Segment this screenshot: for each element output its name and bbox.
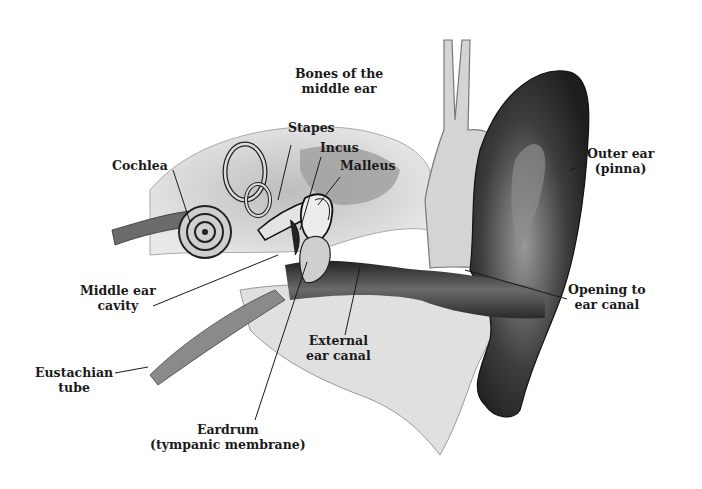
label-stapes: Stapes: [288, 120, 335, 135]
label-eardrum-line-2: (tympanic membrane): [150, 437, 306, 452]
label-bones-of-middle-ear: Bones of the middle ear: [295, 66, 383, 96]
label-eustachian-line-2: tube: [35, 380, 113, 395]
label-eardrum: Eardrum (tympanic membrane): [150, 422, 306, 452]
ear-anatomy-diagram: Bones of the middle ear Stapes Incus Mal…: [0, 0, 702, 489]
label-outer-line-1: Outer ear: [587, 146, 654, 161]
label-bones-line-2: middle ear: [295, 81, 383, 96]
label-external-line-2: ear canal: [306, 348, 371, 363]
label-middle-ear-cavity: Middle ear cavity: [80, 283, 156, 313]
label-cavity-line-2: cavity: [80, 298, 156, 313]
label-eustachian-line-1: Eustachian: [35, 365, 113, 380]
label-opening-to-ear-canal: Opening to ear canal: [568, 282, 646, 312]
label-cochlea: Cochlea: [112, 158, 168, 173]
label-eustachian-tube: Eustachian tube: [35, 365, 113, 395]
label-malleus: Malleus: [340, 158, 396, 173]
pinna: [470, 71, 589, 417]
label-outer-line-2: (pinna): [587, 161, 654, 176]
label-outer-ear: Outer ear (pinna): [587, 146, 654, 176]
label-opening-line-1: Opening to: [568, 282, 646, 297]
label-external-ear-canal: External ear canal: [306, 333, 371, 363]
label-bones-line-1: Bones of the: [295, 66, 383, 81]
label-cavity-line-1: Middle ear: [80, 283, 156, 298]
label-eardrum-line-1: Eardrum: [150, 422, 306, 437]
label-opening-line-2: ear canal: [568, 297, 646, 312]
label-external-line-1: External: [306, 333, 371, 348]
label-incus: Incus: [320, 140, 359, 155]
